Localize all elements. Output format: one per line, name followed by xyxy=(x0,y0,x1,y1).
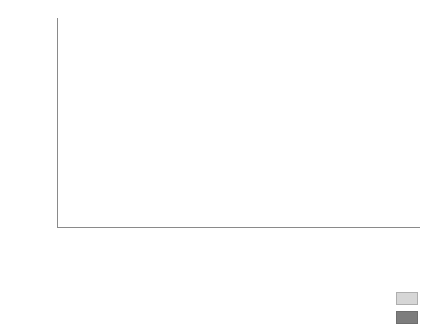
y-axis xyxy=(0,18,57,228)
bar-series-container xyxy=(57,18,420,228)
legend xyxy=(396,292,442,332)
birth-year-group-axis xyxy=(57,281,420,305)
legend-swatch-retroflex xyxy=(396,311,418,324)
legend-item-sh xyxy=(396,292,422,305)
plot-area xyxy=(57,18,420,228)
x-axis-speaker-labels xyxy=(57,230,420,278)
stacked-bar-chart xyxy=(0,0,442,334)
legend-swatch-sh xyxy=(396,292,418,305)
legend-item-retroflex xyxy=(396,311,422,324)
